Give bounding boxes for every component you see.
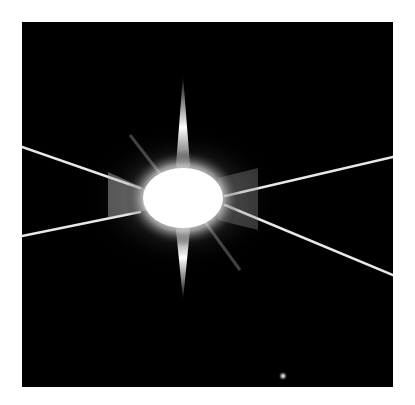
star-core-bright <box>143 168 223 228</box>
companion-star <box>279 372 287 380</box>
star-svg <box>22 22 393 387</box>
star-image <box>22 22 393 387</box>
